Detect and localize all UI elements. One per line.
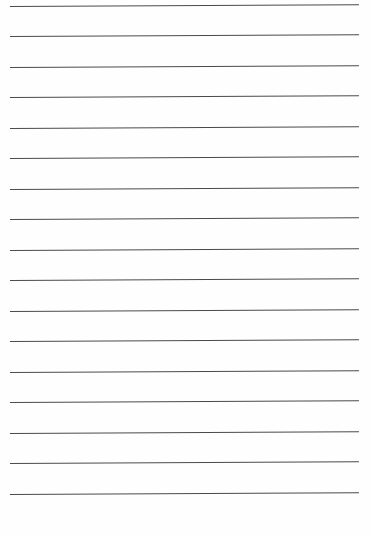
ruled-line	[10, 4, 359, 7]
lined-paper-sheet	[0, 0, 371, 537]
ruled-line	[10, 431, 359, 434]
ruled-line	[10, 370, 359, 373]
ruled-line	[10, 65, 359, 68]
ruled-line	[10, 34, 359, 37]
ruled-line	[10, 339, 359, 342]
ruled-line	[10, 126, 359, 129]
ruled-line	[10, 95, 359, 98]
ruled-line	[10, 248, 359, 251]
ruled-line	[10, 400, 359, 403]
ruled-line	[10, 278, 359, 281]
ruled-line	[10, 461, 359, 464]
ruled-line	[10, 217, 359, 220]
ruled-line	[10, 156, 359, 159]
ruled-line	[10, 187, 359, 190]
ruled-line	[10, 309, 359, 312]
ruled-line	[10, 492, 359, 495]
